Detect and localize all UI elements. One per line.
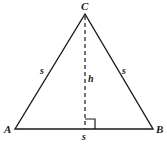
right-angle-marker xyxy=(85,119,95,129)
triangle-drawing xyxy=(0,0,167,144)
triangle-outline xyxy=(15,14,153,129)
triangle-diagram: C A B s s h s xyxy=(0,0,167,144)
vertex-label-a: A xyxy=(4,124,11,135)
height-label: h xyxy=(88,74,94,84)
side-label-right: s xyxy=(122,66,126,76)
side-label-left: s xyxy=(40,66,44,76)
vertex-label-b: B xyxy=(156,124,163,135)
vertex-label-c: C xyxy=(81,1,88,12)
base-label: s xyxy=(82,132,86,142)
